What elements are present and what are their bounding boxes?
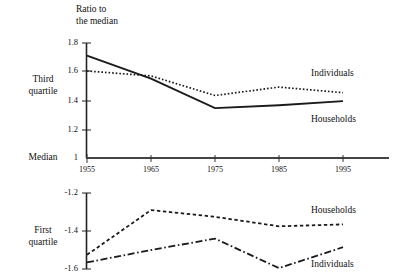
- third-quartile-line-2: quartile: [12, 86, 74, 98]
- series-label-upper-individuals: Individuals: [311, 68, 354, 78]
- y-tick-label-neg-1-6: -1.6: [48, 263, 78, 273]
- panel-label-median: Median: [12, 152, 74, 164]
- panel-label-first-quartile: First quartile: [12, 225, 74, 248]
- first-quartile-line-1: First: [12, 225, 74, 237]
- series-label-lower-households: Households: [311, 205, 356, 215]
- axis-title-line-1: Ratio to: [76, 4, 118, 16]
- panel-label-third-quartile: Third quartile: [12, 74, 74, 97]
- series-lower-individuals: [87, 239, 343, 269]
- y-tick-label-1-2: 1.2: [52, 124, 78, 134]
- series-label-upper-households: Households: [311, 114, 356, 124]
- series-lower-households: [87, 210, 343, 255]
- chart-container: Ratio to the median 1.8 1.6 1.4 1.2 1 -1…: [0, 0, 398, 278]
- y-tick-label-1-8: 1.8: [52, 37, 78, 47]
- series-label-lower-individuals: Individuals: [311, 259, 354, 269]
- series-upper-households: [87, 56, 343, 109]
- axis-title-line-2: the median: [76, 16, 118, 28]
- series-upper-individuals: [87, 71, 343, 96]
- y-tick-label-neg-1-2: -1.2: [48, 187, 78, 197]
- chart-axis-title: Ratio to the median: [76, 4, 118, 27]
- x-tick-label-1965: 1965: [137, 165, 165, 174]
- x-tick-label-1985: 1985: [265, 165, 293, 174]
- first-quartile-line-2: quartile: [12, 237, 74, 249]
- x-tick-label-1975: 1975: [201, 165, 229, 174]
- x-tick-label-1995: 1995: [329, 165, 357, 174]
- third-quartile-line-1: Third: [12, 74, 74, 86]
- x-tick-label-1955: 1955: [73, 165, 101, 174]
